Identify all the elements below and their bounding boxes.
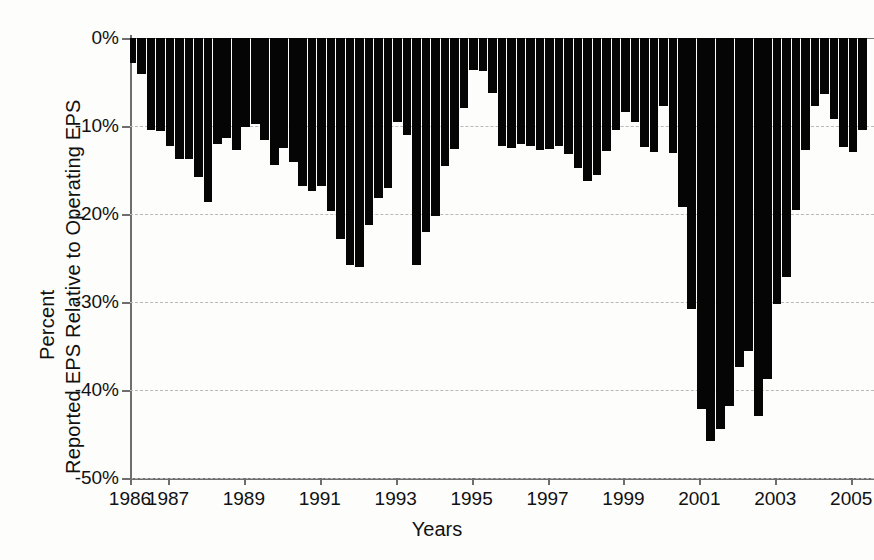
y-tick-label: 0% [92, 27, 119, 49]
bar [185, 38, 194, 159]
bar [308, 38, 317, 191]
bar [317, 38, 326, 186]
y-tick-label: -10% [75, 115, 119, 137]
x-tick-mark [548, 478, 550, 485]
x-tick-mark [775, 478, 777, 485]
bar [384, 38, 393, 188]
bar [697, 38, 706, 409]
y-tick-label: -30% [75, 291, 119, 313]
x-tick-label: 2005 [830, 488, 872, 510]
x-tick-mark [851, 478, 853, 485]
x-tick-mark [699, 478, 701, 485]
bar [355, 38, 364, 267]
bar [232, 38, 241, 150]
x-axis-title: Years [0, 518, 874, 541]
bar [431, 38, 440, 216]
bar [564, 38, 573, 154]
y-tick-mark [122, 214, 130, 216]
bar [574, 38, 583, 168]
bar [678, 38, 687, 207]
bar [147, 38, 156, 130]
x-tick-mark [472, 478, 474, 485]
bar [744, 38, 753, 351]
bar [583, 38, 592, 181]
bar [536, 38, 545, 150]
chart-figure: Percent Reported EPS Relative to Operati… [0, 0, 874, 560]
bar [213, 38, 222, 144]
bar [374, 38, 383, 198]
x-tick-mark [168, 478, 170, 485]
x-tick-label: 1997 [526, 488, 568, 510]
bar [403, 38, 412, 135]
y-tick-mark [122, 478, 130, 480]
bar [545, 38, 554, 149]
bar-series [130, 38, 874, 478]
bar [279, 38, 288, 148]
gridline [130, 478, 874, 479]
bar [602, 38, 611, 151]
bar [555, 38, 564, 146]
bar [270, 38, 279, 165]
bar [222, 38, 231, 138]
bar [858, 38, 867, 130]
bar [716, 38, 725, 429]
bar [346, 38, 355, 265]
bar [130, 38, 136, 63]
bar [194, 38, 203, 177]
bar [204, 38, 213, 202]
bar [526, 38, 535, 146]
x-tick-label: 2001 [678, 488, 720, 510]
bar [422, 38, 431, 232]
bar [498, 38, 507, 146]
x-tick-label: 1993 [375, 488, 417, 510]
bar [631, 38, 640, 122]
bar [640, 38, 649, 147]
y-tick-label: -20% [75, 203, 119, 225]
bar [137, 38, 146, 74]
bar [365, 38, 374, 225]
bar [811, 38, 820, 106]
bar [507, 38, 516, 148]
bar [488, 38, 497, 93]
bar [820, 38, 829, 94]
bar [593, 38, 602, 175]
bar [735, 38, 744, 367]
bar [260, 38, 269, 140]
bar [621, 38, 630, 112]
bar [393, 38, 402, 122]
bar [763, 38, 772, 379]
bar [773, 38, 782, 304]
bar [469, 38, 478, 70]
y-tick-mark [122, 126, 130, 128]
x-tick-label: 1995 [450, 488, 492, 510]
bar [479, 38, 488, 71]
bar [251, 38, 260, 124]
x-tick-label: 1987 [147, 488, 189, 510]
bar [659, 38, 668, 106]
bar [754, 38, 763, 416]
bar [830, 38, 839, 119]
bar [669, 38, 678, 153]
bar [336, 38, 345, 239]
y-tick-mark [122, 302, 130, 304]
bar [289, 38, 298, 162]
y-tick-label: -40% [75, 379, 119, 401]
x-tick-mark [320, 478, 322, 485]
bar [801, 38, 810, 150]
x-tick-label: 1989 [223, 488, 265, 510]
bar [175, 38, 184, 159]
x-tick-label: 1986 [109, 488, 151, 510]
bar [412, 38, 421, 265]
x-tick-label: 2003 [754, 488, 796, 510]
bar [156, 38, 165, 131]
bar [839, 38, 848, 147]
y-tick-mark [122, 390, 130, 392]
bar [166, 38, 175, 146]
x-tick-mark [130, 478, 132, 485]
y-axis-title-line-2: Reported EPS Relative to Operating EPS [62, 100, 85, 474]
x-tick-label: 1991 [299, 488, 341, 510]
bar [441, 38, 450, 166]
bar [650, 38, 659, 152]
y-tick-mark [122, 38, 130, 40]
bar [782, 38, 791, 277]
